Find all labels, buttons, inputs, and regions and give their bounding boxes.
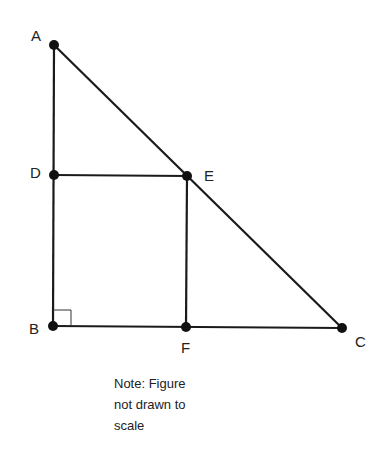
point-e [182, 171, 192, 181]
label-a: A [31, 28, 41, 43]
label-e: E [204, 168, 214, 183]
point-a [49, 40, 59, 50]
note-line-1: Note: Figure [114, 373, 234, 394]
segment-ab [53, 45, 54, 326]
label-b: B [29, 321, 39, 336]
point-d [49, 170, 59, 180]
label-f: F [181, 340, 190, 355]
segment-de [54, 175, 187, 176]
label-c: C [355, 334, 366, 349]
segment-ac [54, 45, 342, 328]
point-f [181, 322, 191, 332]
point-c [337, 323, 347, 333]
label-d: D [30, 165, 41, 180]
note-line-3: scale [114, 415, 234, 436]
note-line-2: not drawn to [114, 394, 234, 415]
segment-bc [53, 326, 342, 328]
segment-ef [186, 176, 187, 327]
figure-note: Note: Figure not drawn to scale [114, 373, 234, 436]
point-b [48, 321, 58, 331]
